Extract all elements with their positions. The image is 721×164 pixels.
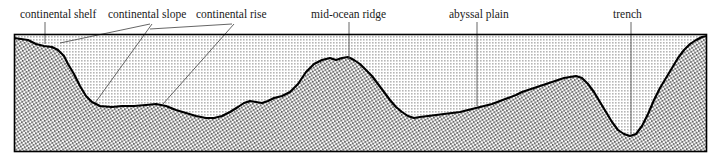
- diagram-canvas: [0, 0, 721, 164]
- label-mid-ocean-ridge: mid-ocean ridge: [311, 9, 386, 21]
- leader-continental-rise-a: [150, 24, 232, 29]
- label-abyssal-plain: abyssal plain: [449, 9, 509, 21]
- label-continental-rise: continental rise: [196, 9, 267, 21]
- label-trench: trench: [613, 9, 642, 21]
- label-continental-slope: continental slope: [108, 9, 186, 21]
- label-continental-shelf: continental shelf: [20, 9, 96, 21]
- ocean-basin-cross-section-diagram: continental shelfcontinental slopecontin…: [0, 0, 721, 164]
